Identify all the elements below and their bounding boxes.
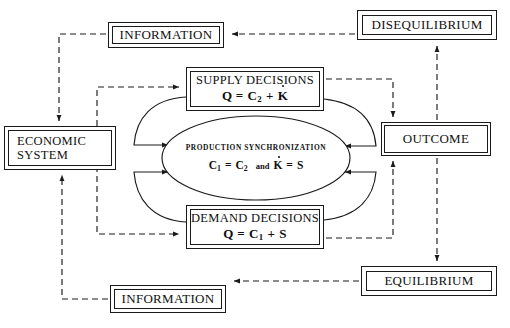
node-disequilibrium[interactable]: DISEQUILIBRIUM [357,10,497,40]
demand-decisions-equation: Q =C1+S [223,227,286,243]
core-eq-s: S [297,159,303,171]
edge-information-bottom-to-economic-system [62,175,108,299]
supply-eq-plus: + [266,88,274,103]
node-production-synchronization[interactable]: PRODUCTION SYNCHRONIZATION C1=C2andK=S [161,116,351,200]
core-eq-k: K [273,159,282,171]
core-eq-equals-2: = [286,159,293,171]
node-equilibrium[interactable]: EQUILIBRIUM [361,266,497,296]
production-synchronization-equation: C1=C2andK=S [209,159,304,173]
supply-decisions-inner: SUPPLY DECISIONS Q =C2+K [190,71,320,107]
edge-supply-decisions-to-outcome [326,79,393,117]
demand-eq-plus: + [267,226,275,241]
node-supply-decisions[interactable]: SUPPLY DECISIONS Q =C2+K [186,67,324,111]
information-top-inner: INFORMATION [112,26,220,44]
supply-eq-k: K [278,89,288,104]
supply-decisions-equation: Q =C2+K [222,89,288,105]
edge-information-top-to-economic-system [59,34,106,121]
demand-eq-c: C [249,226,259,241]
outcome-label: OUTCOME [403,132,469,147]
equilibrium-inner: EQUILIBRIUM [366,271,492,291]
information-bottom-label: INFORMATION [122,292,215,307]
outcome-inner: OUTCOME [384,125,488,153]
economic-system-label-line2: SYSTEM [17,148,68,162]
disequilibrium-inner: DISEQUILIBRIUM [362,15,492,35]
node-economic-system[interactable]: ECONOMIC SYSTEM [4,126,116,170]
node-information-top[interactable]: INFORMATION [108,22,224,48]
disequilibrium-label: DISEQUILIBRIUM [371,18,482,33]
diagram-canvas: INFORMATION DISEQUILIBRIUM ECONOMIC SYST… [0,0,510,328]
demand-decisions-label: DEMAND DECISIONS [191,211,319,225]
core-eq-and: and [256,161,270,171]
demand-eq-c-sub: 1 [259,232,264,242]
equilibrium-label: EQUILIBRIUM [384,274,473,289]
supply-eq-c-sub: 2 [257,94,262,104]
core-eq-equals-1: = [225,159,232,171]
node-demand-decisions[interactable]: DEMAND DECISIONS Q =C1+S [186,205,324,249]
supply-eq-c: C [248,88,258,103]
information-top-label: INFORMATION [120,28,213,43]
core-eq-c-a-sub: 1 [217,164,221,173]
economic-system-label-line1: ECONOMIC [17,134,86,148]
production-synchronization-title: PRODUCTION SYNCHRONIZATION [186,143,326,152]
core-eq-c-a: C [209,159,217,171]
information-bottom-inner: INFORMATION [114,289,222,309]
economic-system-inner: ECONOMIC SYSTEM [8,130,112,166]
demand-eq-s: S [279,226,287,241]
node-outcome[interactable]: OUTCOME [381,122,491,156]
core-eq-c-b-sub: 2 [244,164,248,173]
core-eq-c-b: C [235,159,243,171]
node-information-bottom[interactable]: INFORMATION [110,285,226,313]
demand-eq-lhs: Q = [223,226,245,241]
supply-decisions-label: SUPPLY DECISIONS [196,73,314,87]
demand-decisions-inner: DEMAND DECISIONS Q =C1+S [190,209,320,245]
supply-eq-lhs: Q = [222,88,244,103]
